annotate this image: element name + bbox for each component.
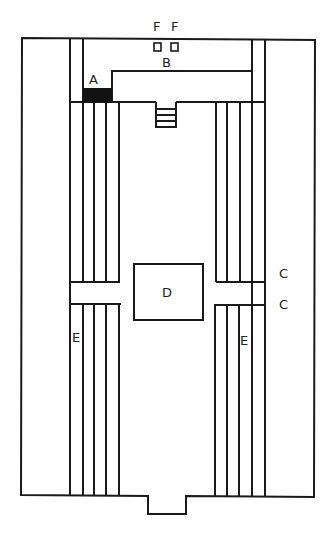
plan-walls [21, 38, 315, 514]
label-c-2: C [279, 297, 288, 312]
region-a-block [83, 88, 112, 102]
label-e-right: E [240, 333, 248, 348]
label-b: B [162, 55, 171, 70]
region-f-square-1 [154, 43, 161, 51]
floor-plan: A B F F D C C E E [0, 0, 335, 539]
label-c-1: C [279, 266, 288, 281]
label-d: D [162, 285, 172, 300]
label-f-2: F [171, 19, 178, 34]
region-f-square-2 [171, 43, 178, 51]
region-b-outline [112, 71, 252, 102]
label-f-1: F [153, 19, 160, 34]
label-e-left: E [72, 330, 80, 345]
label-a: A [89, 72, 98, 87]
